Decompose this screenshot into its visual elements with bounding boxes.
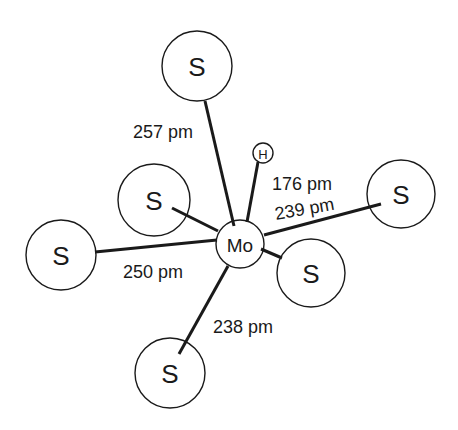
sulfur-atom-s-top: S	[162, 31, 232, 101]
bond-length-label-257: 257 pm	[133, 122, 193, 142]
bond-h	[247, 162, 258, 222]
atom-label: S	[145, 186, 162, 216]
sulfur-atom-s-upper-left: S	[118, 164, 190, 236]
bond-left	[95, 240, 217, 252]
atom-label: S	[188, 52, 205, 82]
atom-label: Mo	[227, 235, 253, 256]
sulfur-atom-s-lower-right: S	[277, 239, 345, 307]
bond-length-label-176: 176 pm	[272, 174, 332, 194]
bond-bottom	[179, 266, 228, 354]
bond-length-label-250: 250 pm	[123, 262, 183, 282]
sulfur-atom-s-right: S	[367, 160, 435, 228]
molybdenum-atom: Mo	[216, 220, 264, 268]
molecule-diagram: SSSSSSMoH257 pm176 pm239 pm250 pm238 pm	[0, 0, 458, 430]
molecule-svg: SSSSSSMoH257 pm176 pm239 pm250 pm238 pm	[0, 0, 458, 430]
atom-label: S	[392, 180, 409, 210]
sulfur-atom-s-bottom: S	[135, 338, 205, 408]
atom-label: S	[52, 241, 69, 271]
bond-length-label-238: 238 pm	[213, 317, 273, 337]
atom-label: S	[302, 259, 319, 289]
sulfur-atom-s-left: S	[26, 220, 96, 290]
bond-lower-right	[261, 249, 282, 258]
atom-label: S	[161, 359, 178, 389]
bond-top	[205, 101, 234, 226]
hydrogen-atom: H	[253, 143, 273, 163]
atom-label: H	[258, 147, 267, 162]
